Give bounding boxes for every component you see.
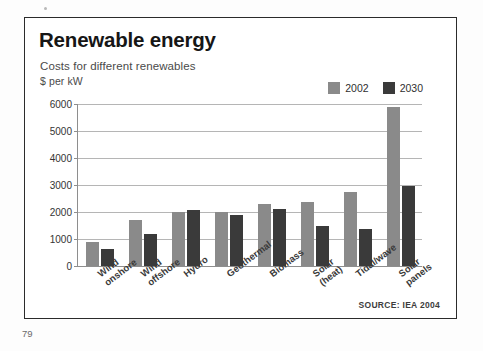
legend-item-2002: 2002 bbox=[328, 82, 368, 94]
legend-item-2030: 2030 bbox=[383, 82, 423, 94]
y-axis-tick-label: 0 bbox=[66, 261, 72, 272]
chart-unit-label: $ per kW bbox=[40, 75, 83, 87]
chart-figure: Renewable energy Costs for different ren… bbox=[24, 17, 457, 319]
y-axis-tick-label: 4000 bbox=[50, 153, 72, 164]
scan-artifact-speck bbox=[44, 7, 47, 10]
bar-wind-onshore-2002 bbox=[86, 242, 99, 266]
legend-swatch-2002 bbox=[328, 82, 340, 94]
page-number: 79 bbox=[22, 328, 33, 339]
y-axis-tick-mark bbox=[74, 266, 78, 267]
legend-label-2002: 2002 bbox=[345, 82, 368, 94]
y-axis-tick-label: 5000 bbox=[50, 126, 72, 137]
legend-label-2030: 2030 bbox=[400, 82, 423, 94]
source-note: SOURCE: IEA 2004 bbox=[359, 300, 440, 310]
bar-solar-panels-2030 bbox=[402, 186, 415, 266]
bar-geothermal-2002 bbox=[215, 212, 228, 266]
bars-layer bbox=[78, 104, 422, 266]
chart-title: Renewable energy bbox=[39, 28, 216, 52]
scanned-page: Renewable energy Costs for different ren… bbox=[0, 0, 483, 351]
plot-area: 0100020003000400050006000 WindonshoreWin… bbox=[77, 104, 422, 267]
chart-legend: 2002 2030 bbox=[328, 82, 423, 94]
y-axis-tick-label: 6000 bbox=[50, 99, 72, 110]
bar-tidal-wave-2002 bbox=[344, 192, 357, 266]
chart-subtitle: Costs for different renewables bbox=[40, 60, 196, 72]
y-axis-tick-label: 3000 bbox=[50, 180, 72, 191]
y-axis-tick-label: 2000 bbox=[50, 207, 72, 218]
y-axis-tick-label: 1000 bbox=[50, 234, 72, 245]
legend-swatch-2030 bbox=[383, 82, 395, 94]
